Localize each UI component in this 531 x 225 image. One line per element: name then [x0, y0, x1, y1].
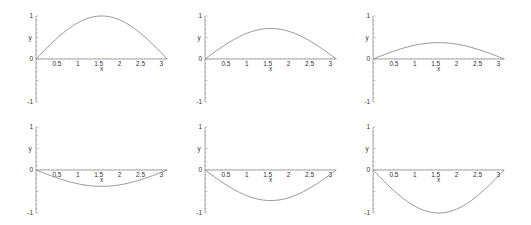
y-axis-label: y [197, 34, 201, 42]
y-tick-label: 0 [29, 166, 33, 173]
x-axis-label: x [437, 176, 441, 183]
x-tick-label: 0.5 [221, 60, 230, 67]
chart-panel: 0.511.522.53x-101y [364, 123, 504, 216]
x-tick-label: 2.5 [136, 60, 145, 67]
data-line [373, 43, 504, 59]
x-axis-label: x [269, 176, 273, 183]
chart-panel: 0.511.522.53x-101y [196, 12, 336, 105]
y-tick-label: 1 [366, 123, 370, 130]
x-tick-label: 1 [245, 60, 249, 67]
chart-panel: 0.511.522.53x-101y [196, 123, 336, 216]
x-tick-label: 2.5 [473, 171, 482, 178]
x-tick-label: 3 [497, 60, 501, 67]
x-tick-label: 0.5 [221, 171, 230, 178]
y-tick-label: 0 [198, 55, 202, 62]
x-tick-label: 1 [245, 171, 249, 178]
chart-panel: 0.511.522.53x-101y [364, 12, 504, 105]
data-line [36, 16, 167, 59]
x-tick-label: 2 [118, 60, 122, 67]
x-axis-label: x [269, 65, 273, 72]
x-tick-label: 1 [76, 60, 80, 67]
x-axis-label: x [437, 65, 441, 72]
chart-panel: 0.511.522.53x-101y [27, 12, 167, 105]
y-axis-label: y [365, 145, 369, 153]
x-tick-label: 1 [413, 171, 417, 178]
y-axis-label: y [365, 34, 369, 42]
y-tick-label: -1 [364, 98, 370, 105]
x-tick-label: 1 [76, 171, 80, 178]
x-axis-label: x [100, 65, 104, 72]
y-tick-label: -1 [27, 98, 33, 105]
chart-panel: 0.511.522.53x-101y [27, 123, 167, 216]
x-tick-label: 2.5 [305, 60, 314, 67]
y-tick-label: 1 [198, 123, 202, 130]
small-multiples-figure: 0.511.522.53x-101y0.511.522.53x-101y0.51… [0, 0, 531, 225]
data-line [205, 28, 336, 59]
x-tick-label: 0.5 [389, 60, 398, 67]
x-tick-label: 2 [455, 60, 459, 67]
y-tick-label: 0 [366, 166, 370, 173]
x-tick-label: 3 [329, 60, 333, 67]
y-axis-label: y [197, 145, 201, 153]
y-tick-label: -1 [364, 209, 370, 216]
y-tick-label: -1 [27, 209, 33, 216]
x-tick-label: 0.5 [389, 171, 398, 178]
y-tick-label: 0 [198, 166, 202, 173]
x-tick-label: 2 [287, 60, 291, 67]
x-tick-label: 2 [118, 171, 122, 178]
x-tick-label: 2.5 [305, 171, 314, 178]
x-tick-label: 2 [455, 171, 459, 178]
y-axis-label: y [28, 145, 32, 153]
y-tick-label: 1 [29, 12, 33, 19]
y-tick-label: -1 [196, 98, 202, 105]
x-axis-label: x [100, 176, 104, 183]
x-tick-label: 0.5 [52, 60, 61, 67]
y-tick-label: 1 [366, 12, 370, 19]
x-tick-label: 3 [160, 60, 164, 67]
y-axis-label: y [28, 34, 32, 42]
x-tick-label: 2 [287, 171, 291, 178]
x-tick-label: 1 [413, 60, 417, 67]
x-tick-label: 2.5 [136, 171, 145, 178]
y-tick-label: 0 [29, 55, 33, 62]
y-tick-label: 1 [198, 12, 202, 19]
x-tick-label: 2.5 [473, 60, 482, 67]
y-tick-label: 0 [366, 55, 370, 62]
y-tick-label: 1 [29, 123, 33, 130]
y-tick-label: -1 [196, 209, 202, 216]
